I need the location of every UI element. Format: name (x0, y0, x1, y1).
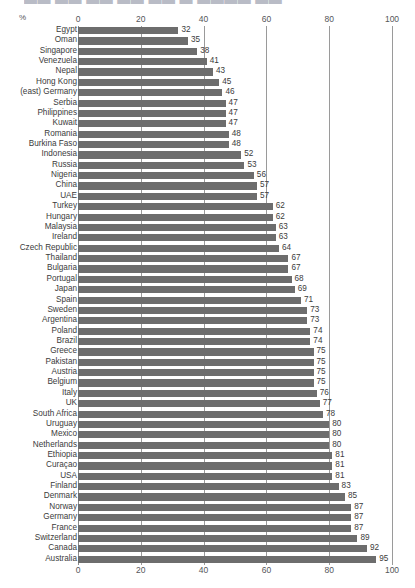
bar (78, 286, 295, 293)
x-tick-label-60: 60 (262, 565, 271, 575)
bar (78, 462, 332, 469)
bar-row: Russia53 (0, 161, 415, 170)
category-label: Sweden (0, 305, 77, 315)
bar (78, 131, 229, 138)
bar-value-label: 74 (313, 336, 322, 346)
category-label: Japan (0, 284, 77, 294)
bar (78, 162, 244, 169)
bar-value-label: 74 (313, 326, 322, 336)
x-axis-bottom: 020406080100 (0, 565, 415, 577)
bar (78, 37, 188, 44)
bar (78, 452, 332, 459)
bar-value-label: 78 (326, 409, 335, 419)
bar (78, 255, 288, 262)
category-label: Denmark (0, 491, 77, 501)
bar-row: Venezuela41 (0, 57, 415, 66)
bar-row: Romania48 (0, 130, 415, 139)
bar-value-label: 32 (181, 25, 190, 35)
bar (78, 203, 273, 210)
bar-value-label: 81 (335, 460, 344, 470)
category-label: Russia (0, 160, 77, 170)
category-label: Thailand (0, 253, 77, 263)
category-label: France (0, 523, 77, 533)
bar-row: Nepal43 (0, 67, 415, 76)
category-label: Venezuela (0, 56, 77, 66)
bar-value-label: 75 (317, 377, 326, 387)
bar-value-label: 87 (354, 512, 363, 522)
bar-row: Philippines47 (0, 109, 415, 118)
bar-row: Germany87 (0, 513, 415, 522)
bar-row: Pakistan75 (0, 358, 415, 367)
category-label: Czech Republic (0, 243, 77, 253)
bar-value-label: 35 (191, 35, 200, 45)
horizontal-bar-chart: ▬▬ ▬▬ ▬▬ ▬▬ ▬▬ ▬ ▬▬▬▬ ▬▬ % 020406080100 … (0, 0, 415, 588)
bar-row: Malaysia63 (0, 223, 415, 232)
bar-value-label: 75 (317, 346, 326, 356)
bar (78, 245, 279, 252)
bar (78, 151, 241, 158)
bar-row: Serbia47 (0, 99, 415, 108)
bar (78, 431, 329, 438)
bar-value-label: 95 (379, 554, 388, 564)
bar-row: USA81 (0, 472, 415, 481)
bar-value-label: 83 (342, 481, 351, 491)
bar-row: Italy76 (0, 389, 415, 398)
bar-value-label: 57 (260, 191, 269, 201)
category-label: UK (0, 398, 77, 408)
category-label: Argentina (0, 315, 77, 325)
bar-value-label: 48 (232, 139, 241, 149)
category-label: Nepal (0, 66, 77, 76)
category-label: Turkey (0, 201, 77, 211)
bar-value-label: 75 (317, 357, 326, 367)
bar-row: Ethiopia81 (0, 451, 415, 460)
bar (78, 234, 276, 241)
category-label: Malaysia (0, 222, 77, 232)
category-label: Belgium (0, 377, 77, 387)
bar (78, 483, 339, 490)
bar (78, 68, 213, 75)
category-label: Philippines (0, 108, 77, 118)
bar-row: China57 (0, 181, 415, 190)
bar (78, 328, 310, 335)
category-label: Oman (0, 35, 77, 45)
category-label: Bulgaria (0, 263, 77, 273)
bar-row: Mexico80 (0, 430, 415, 439)
bar-value-label: 67 (291, 253, 300, 263)
bar (78, 338, 310, 345)
bar-value-label: 69 (298, 284, 307, 294)
bar-value-label: 80 (332, 419, 341, 429)
bar-row: UK77 (0, 399, 415, 408)
bar-value-label: 56 (257, 170, 266, 180)
bar (78, 307, 307, 314)
category-label: Uruguay (0, 419, 77, 429)
bar-row: South Africa78 (0, 410, 415, 419)
bar (78, 348, 314, 355)
bar-row: Sweden73 (0, 306, 415, 315)
bar-row: Indonesia52 (0, 150, 415, 159)
bar (78, 100, 226, 107)
bar-row: Egypt32 (0, 26, 415, 35)
bar-row: France87 (0, 524, 415, 533)
bar-value-label: 63 (279, 232, 288, 242)
bar-value-label: 45 (222, 77, 231, 87)
bar (78, 545, 367, 552)
bar (78, 48, 197, 55)
bar (78, 421, 329, 428)
category-label: Italy (0, 388, 77, 398)
bar (78, 379, 314, 386)
bar-row: Uruguay80 (0, 420, 415, 429)
bar-row: Czech Republic64 (0, 244, 415, 253)
category-label: Ireland (0, 232, 77, 242)
category-label: Greece (0, 346, 77, 356)
bar (78, 369, 314, 376)
bar (78, 359, 314, 366)
x-tick-label-20: 20 (136, 14, 145, 24)
bar-value-label: 71 (304, 295, 313, 305)
bar-row: Poland74 (0, 327, 415, 336)
category-label: (east) Germany (0, 87, 77, 97)
category-label: Netherlands (0, 440, 77, 450)
bar (78, 442, 329, 449)
bar-row: Hungary62 (0, 213, 415, 222)
bar (78, 141, 229, 148)
bar-value-label: 43 (216, 66, 225, 76)
